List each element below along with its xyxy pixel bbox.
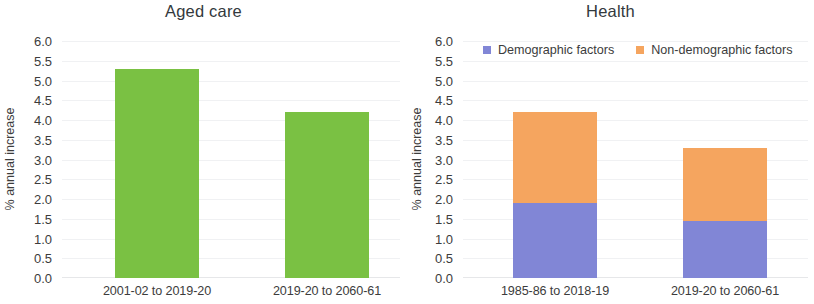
- y-tick-label: 0.0: [435, 272, 453, 285]
- legend-item[interactable]: Non-demographic factors: [636, 44, 792, 57]
- legend-label: Non-demographic factors: [651, 44, 792, 57]
- y-tick-label: 1.0: [435, 232, 453, 245]
- y-tick-label: 5.0: [435, 74, 453, 87]
- y-tick-label: 1.5: [435, 212, 453, 225]
- bar-group[interactable]: [513, 41, 597, 278]
- legend-label: Demographic factors: [498, 44, 614, 57]
- y-tick-label: 2.0: [435, 193, 453, 206]
- y-tick-label: 4.5: [435, 94, 453, 107]
- bar[interactable]: [683, 148, 767, 278]
- legend-swatch-icon: [483, 46, 491, 54]
- y-tick-label: 1.0: [34, 232, 52, 245]
- bar-group[interactable]: [115, 41, 199, 278]
- y-axis-ticks-aged-care: 6.05.55.04.54.03.53.02.52.01.51.00.50.0: [0, 41, 58, 278]
- bar-segment[interactable]: [513, 203, 597, 278]
- bar-segment[interactable]: [513, 112, 597, 203]
- y-tick-label: 3.0: [34, 153, 52, 166]
- y-tick-label: 2.5: [34, 173, 52, 186]
- y-tick-label: 5.5: [34, 54, 52, 67]
- y-axis-ticks-health: 6.05.55.04.54.03.53.02.52.01.51.00.50.0: [407, 41, 459, 278]
- y-tick-label: 0.5: [34, 252, 52, 265]
- y-tick-label: 3.5: [435, 133, 453, 146]
- y-tick-label: 0.0: [34, 272, 52, 285]
- y-tick-label: 6.0: [34, 35, 52, 48]
- bar-segment[interactable]: [285, 112, 369, 278]
- y-tick-label: 5.5: [435, 54, 453, 67]
- legend-health: Demographic factorsNon-demographic facto…: [483, 44, 814, 57]
- panel-title-aged-care: Aged care: [0, 2, 407, 21]
- bar-group[interactable]: [285, 41, 369, 278]
- bar-segment[interactable]: [115, 69, 199, 278]
- bar-group[interactable]: [683, 41, 767, 278]
- legend-item[interactable]: Demographic factors: [483, 44, 614, 57]
- y-tick-label: 1.5: [34, 212, 52, 225]
- bar[interactable]: [115, 69, 199, 278]
- plot-area-health: [463, 41, 808, 278]
- y-tick-label: 6.0: [435, 35, 453, 48]
- y-tick-label: 5.0: [34, 74, 52, 87]
- y-tick-label: 4.5: [34, 94, 52, 107]
- y-tick-label: 4.0: [34, 114, 52, 127]
- panel-title-health: Health: [407, 2, 814, 21]
- y-tick-label: 0.5: [435, 252, 453, 265]
- y-tick-label: 3.5: [34, 133, 52, 146]
- panel-health: Health % annual increase 6.05.55.04.54.0…: [407, 0, 814, 304]
- chart-figure: Aged care % annual increase 6.05.55.04.5…: [0, 0, 814, 304]
- y-tick-label: 3.0: [435, 153, 453, 166]
- x-tick-label: 2019-20 to 2060-61: [671, 284, 779, 298]
- x-tick-label: 2019-20 to 2060-61: [273, 284, 381, 298]
- bar-segment[interactable]: [683, 221, 767, 278]
- y-tick-label: 2.5: [435, 173, 453, 186]
- panel-aged-care: Aged care % annual increase 6.05.55.04.5…: [0, 0, 407, 304]
- legend-swatch-icon: [636, 46, 644, 54]
- bar-segment[interactable]: [683, 148, 767, 221]
- bar[interactable]: [285, 112, 369, 278]
- bar[interactable]: [513, 112, 597, 278]
- x-tick-label: 1985-86 to 2018-19: [501, 284, 609, 298]
- y-tick-label: 4.0: [435, 114, 453, 127]
- y-tick-label: 2.0: [34, 193, 52, 206]
- plot-area-aged-care: [62, 41, 400, 278]
- x-tick-label: 2001-02 to 2019-20: [103, 284, 211, 298]
